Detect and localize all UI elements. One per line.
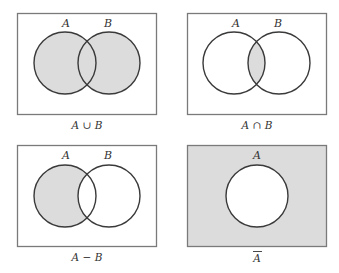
caption-difference: A − B: [71, 251, 103, 263]
set-a-circle: [226, 165, 288, 227]
panel-difference: A B A − B: [18, 146, 157, 264]
venn-diagram-figure: A B A ∪ B A B A ∩ B A B A − B A A: [0, 0, 339, 273]
set-b-label: B: [103, 17, 112, 30]
panel-complement: A A: [188, 146, 327, 265]
caption-complement: A: [252, 252, 261, 264]
set-b-label: B: [103, 149, 112, 162]
set-a-label: A: [252, 149, 261, 162]
set-b-label: B: [273, 17, 282, 30]
panel-union: A B A ∪ B: [18, 14, 157, 132]
caption-union: A ∪ B: [71, 119, 103, 131]
set-a-label: A: [61, 17, 70, 30]
set-a-label: A: [61, 149, 70, 162]
panel-intersection: A B A ∩ B: [188, 14, 327, 132]
caption-intersection: A ∩ B: [241, 119, 273, 131]
set-a-label: A: [231, 17, 240, 30]
